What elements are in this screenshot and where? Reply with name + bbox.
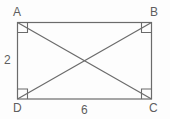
side-length-label-bottom: 6: [81, 104, 88, 116]
vertex-label-a: A: [13, 6, 21, 18]
vertex-label-c: C: [149, 102, 158, 114]
vertex-label-d: D: [13, 102, 22, 114]
geometry-figure: A B D C 2 6: [0, 0, 170, 119]
side-length-label-left: 2: [4, 54, 11, 66]
rectangle-diagram-svg: [0, 0, 170, 119]
vertex-label-b: B: [150, 6, 158, 18]
